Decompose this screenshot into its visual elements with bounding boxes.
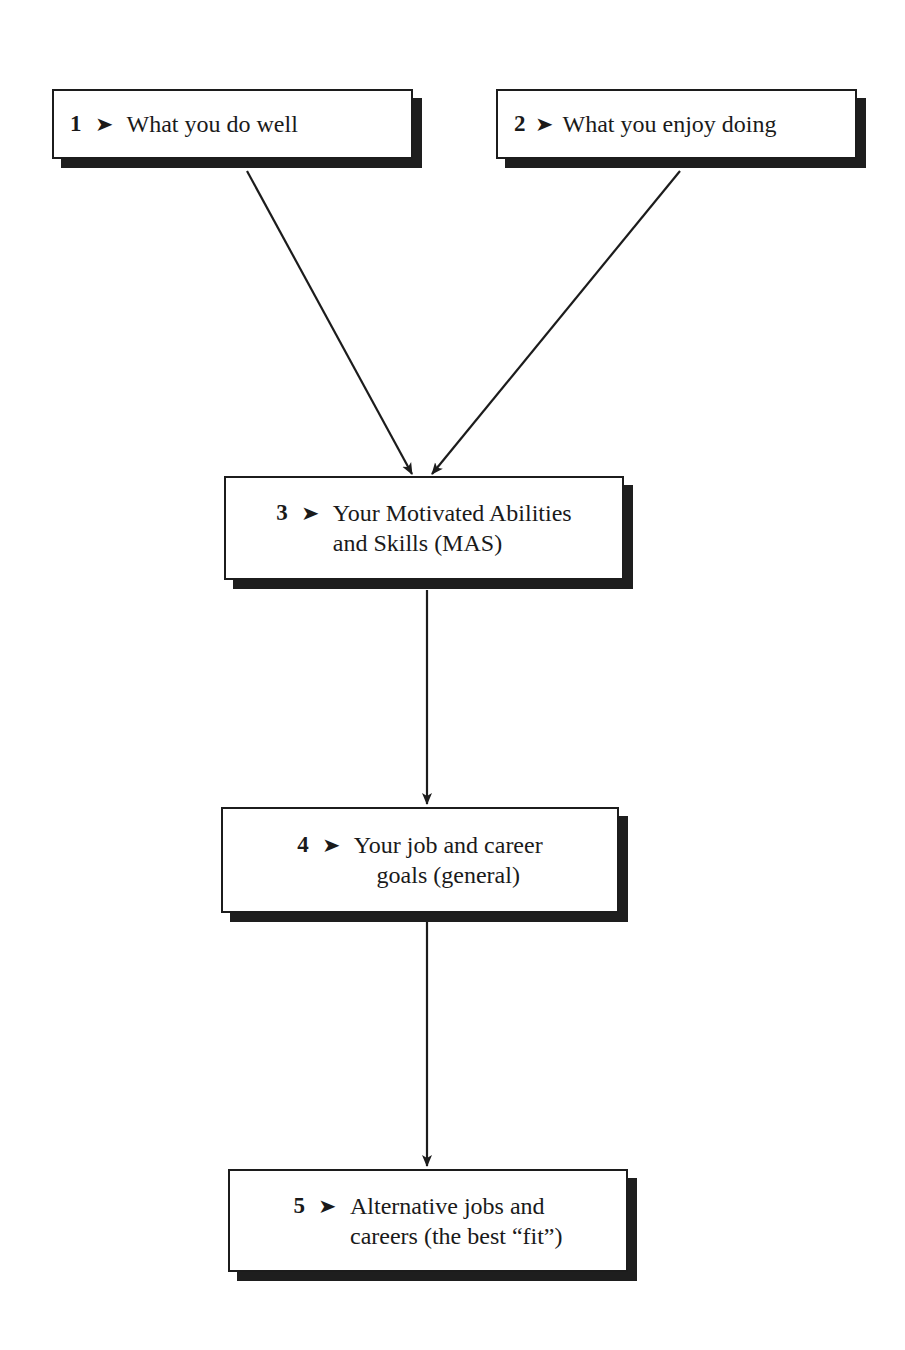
arrow-1-to-3 [247,171,412,474]
step-label-line: Your job and career [354,830,543,860]
step-label-line: Your Motivated Abilities [333,498,572,528]
step-2-box: 2 ➤ What you enjoy doing [496,89,857,159]
step-label-line: Alternative jobs and [350,1191,563,1221]
arrow-bullet-icon: ➤ [322,830,341,860]
step-number: 1 [70,111,82,137]
step-number: 3 [276,498,288,528]
step-label: What you do well [127,109,298,139]
arrow-2-to-3 [432,171,680,474]
step-3-box: 3 ➤ Your Motivated Abilities and Skills … [224,476,624,580]
step-4-box: 4 ➤ Your job and career goals (general) [221,807,619,913]
step-label-line: and Skills (MAS) [333,528,572,558]
step-label: Your Motivated Abilities and Skills (MAS… [333,498,572,558]
step-label-line: careers (the best “fit”) [350,1221,563,1251]
step-number: 4 [297,830,309,860]
arrow-bullet-icon: ➤ [95,112,114,136]
step-number: 5 [293,1191,305,1221]
arrow-bullet-icon: ➤ [535,112,554,136]
arrow-bullet-icon: ➤ [318,1191,337,1221]
step-label-line: goals (general) [354,860,543,890]
step-1-box: 1 ➤ What you do well [52,89,413,159]
step-number: 2 [514,111,526,137]
connector-arrows [0,0,905,1350]
step-5-box: 5 ➤ Alternative jobs and careers (the be… [228,1169,628,1272]
arrow-bullet-icon: ➤ [301,498,320,528]
step-label: Alternative jobs and careers (the best “… [350,1191,563,1251]
step-label: Your job and career goals (general) [354,830,543,890]
step-label: What you enjoy doing [563,109,777,139]
